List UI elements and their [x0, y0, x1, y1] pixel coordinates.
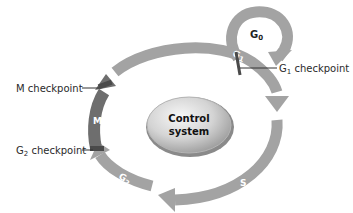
m-arc: M — [82, 74, 116, 151]
g1-checkpoint-label: G1 checkpoint — [279, 63, 349, 76]
control-system-line1: Control — [168, 113, 209, 124]
s-phase-label: S — [240, 178, 246, 188]
m-phase-label: M — [93, 116, 102, 126]
control-system: Control system — [146, 97, 234, 157]
m-checkpoint-label: M checkpoint — [16, 83, 83, 94]
cell-cycle-diagram: G0 G1 S G2 M Control system — [0, 0, 353, 213]
g1-arrowhead-icon — [265, 96, 289, 112]
control-system-line2: system — [169, 126, 209, 137]
g0-label: G0 — [250, 29, 263, 42]
s-arrowhead-icon — [158, 188, 175, 212]
g2-checkpoint-label: G2 checkpoint — [16, 145, 86, 158]
